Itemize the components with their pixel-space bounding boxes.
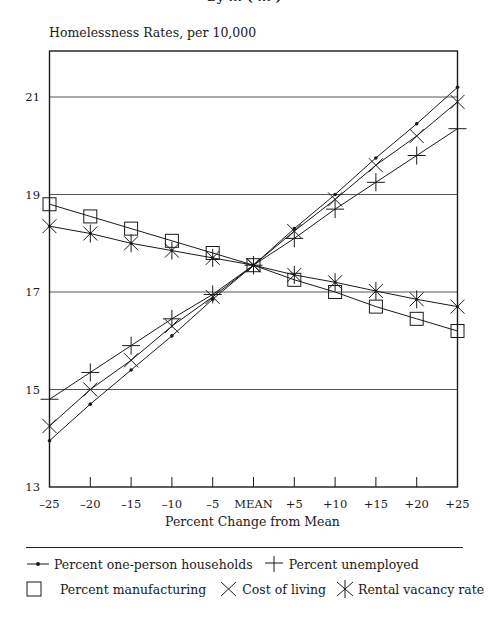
dot-marker [333,193,337,197]
x-tick-label: +5 [286,497,303,511]
x-tick-label: +15 [364,497,388,511]
legend-label: Percent one-person households [54,557,253,572]
legend-item-manufacturing: Percent manufacturing [26,581,206,597]
asterisk-icon [336,580,354,598]
asterisk-center [456,305,459,308]
asterisk-center [415,298,418,301]
plus-icon [263,556,285,572]
x-tick-label: –15 [121,497,141,511]
legend-item-one-person: Percent one-person households [26,557,253,572]
x-tick-label: –10 [162,497,182,511]
x-tick-label: +25 [445,497,469,511]
legend-item-cost-of-living: Cost of living [220,581,326,597]
x-tick-label: MEAN [234,497,273,511]
legend-item-unemployed: Percent unemployed [263,556,419,572]
y-tick-label: 13 [25,480,40,494]
asterisk-center [375,290,378,293]
y-tick-label: 19 [25,188,40,202]
x-tick-label: –5 [206,497,219,511]
x-tick-label: +20 [405,497,429,511]
axes: 1315171921–25–20–15–10–5MEAN+5+10+15+20+… [25,51,469,511]
asterisk-center [293,274,296,277]
dot-marker [48,439,52,443]
legend-item-rental-vacancy: Rental vacancy rate [336,580,484,598]
asterisk-center [89,232,92,235]
legend-label: Rental vacancy rate [358,582,484,597]
asterisk-center [334,281,337,284]
dot-marker [129,368,133,372]
dot-marker [89,402,93,406]
dot-marker [374,156,378,160]
asterisk-center [171,249,174,252]
x-tick-label: +10 [323,497,347,511]
legend-label: Cost of living [242,582,326,597]
asterisk-center [252,264,255,267]
legend-divider [26,547,463,548]
asterisk-center [130,242,133,245]
x-tick-label: –25 [39,497,59,511]
dot-line-icon [26,558,50,570]
x-tick-label: –20 [80,497,100,511]
dot-marker [170,334,174,338]
square-icon [26,581,50,597]
legend-row-2: Percent manufacturing Cost of living Ren… [26,580,489,598]
y-tick-label: 17 [25,285,40,299]
legend-row-1: Percent one-person households Percent un… [26,556,429,572]
legend-label: Percent manufacturing [60,582,206,597]
x-icon [220,581,238,597]
asterisk-center [211,256,214,259]
y-tick-label: 15 [25,383,40,397]
asterisk-center [48,225,51,228]
legend-label: Percent unemployed [289,557,419,572]
dot-marker [456,85,460,89]
x-axis-title: Percent Change from Mean [0,514,489,529]
y-tick-label: 21 [25,90,40,104]
dot-marker [415,122,419,126]
series-markers [41,85,467,442]
